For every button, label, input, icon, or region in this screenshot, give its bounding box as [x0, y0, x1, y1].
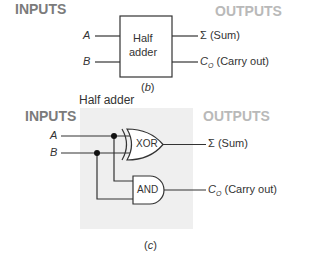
sum-symbol: Σ [208, 137, 215, 149]
input-b-label-b: B [83, 55, 90, 67]
sum-output-b: Σ (Sum) [200, 29, 240, 41]
and-label: AND [137, 184, 158, 195]
carry-subscript: O [208, 62, 213, 69]
xor-label: XOR [136, 138, 158, 149]
junction-a [111, 133, 117, 139]
caption-paren-close: ) [151, 81, 155, 93]
inputs-heading-c: INPUTS [25, 108, 76, 124]
carry-output-c: CO (Carry out) [208, 183, 277, 197]
block-label-line1: Half [133, 32, 153, 44]
caption-paren-close: ) [153, 239, 157, 251]
sum-label: (Sum) [210, 29, 240, 41]
caption-b: (b) [141, 81, 154, 93]
junction-b [94, 150, 100, 156]
carry-symbol: C [200, 55, 208, 67]
input-b-label-c: B [50, 146, 57, 158]
sum-output-c: Σ (Sum) [208, 137, 248, 149]
carry-label: (Carry out) [224, 183, 277, 195]
carry-symbol: C [208, 183, 216, 195]
input-a-label-b: A [83, 29, 90, 41]
sum-label: (Sum) [218, 137, 248, 149]
carry-output-b: CO (Carry out) [200, 55, 269, 69]
block-label-line2: adder [129, 46, 157, 58]
caption-c: (c) [144, 239, 157, 251]
xor-extra-curve [122, 129, 127, 160]
half-adder-title: Half adder [79, 93, 134, 107]
outputs-heading-c: OUTPUTS [203, 108, 270, 124]
input-a-label-c: A [50, 129, 57, 141]
sum-symbol: Σ [200, 29, 207, 41]
carry-subscript: O [216, 190, 221, 197]
carry-label: (Carry out) [216, 55, 269, 67]
